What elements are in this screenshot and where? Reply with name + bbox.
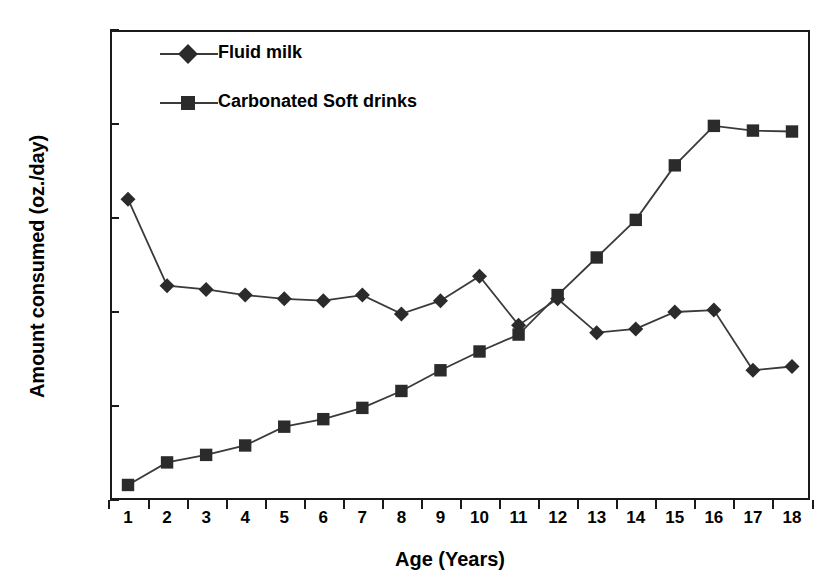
y-tick-mark: [110, 217, 119, 219]
x-axis-title: Age (Years): [100, 548, 800, 571]
x-tick-mark: [655, 500, 657, 509]
x-tick-mark: [538, 500, 540, 509]
legend-key-square-icon: [160, 92, 218, 114]
y-tick-mark: [110, 311, 119, 313]
x-tick-label: 14: [616, 508, 656, 528]
x-tick-label: 17: [733, 508, 773, 528]
x-tick-mark: [616, 500, 618, 509]
line-chart: Amount consumed (oz./day) 0510152025 123…: [0, 0, 834, 586]
x-tick-mark: [694, 500, 696, 509]
x-tick-mark: [343, 500, 345, 509]
x-tick-label: 9: [420, 508, 460, 528]
y-tick-mark: [110, 123, 119, 125]
x-tick-label: 13: [577, 508, 617, 528]
x-tick-mark: [577, 500, 579, 509]
x-tick-mark: [772, 500, 774, 509]
x-tick-label: 16: [694, 508, 734, 528]
x-tick-label: 12: [538, 508, 578, 528]
y-axis-title: Amount consumed (oz./day): [26, 47, 49, 487]
x-tick-label: 7: [342, 508, 382, 528]
x-tick-mark: [304, 500, 306, 509]
legend-entry-fluid-milk: Fluid milk: [160, 42, 500, 65]
x-tick-label: 4: [225, 508, 265, 528]
x-tick-label: 10: [460, 508, 500, 528]
y-tick-mark: [110, 499, 119, 501]
x-tick-mark: [812, 500, 814, 509]
y-tick-mark: [110, 29, 119, 31]
legend-key-diamond-icon: [160, 43, 218, 65]
x-tick-label: 3: [186, 508, 226, 528]
square-marker-icon: [181, 96, 195, 110]
x-tick-label: 8: [381, 508, 421, 528]
x-tick-mark: [226, 500, 228, 509]
x-tick-mark: [460, 500, 462, 509]
legend-label-fluid-milk: Fluid milk: [218, 42, 302, 63]
legend: Fluid milk Carbonated Soft drinks: [160, 42, 500, 140]
x-tick-label: 15: [655, 508, 695, 528]
x-tick-mark: [733, 500, 735, 509]
x-tick-label: 2: [147, 508, 187, 528]
x-tick-label: 5: [264, 508, 304, 528]
x-tick-label: 1: [108, 508, 148, 528]
x-tick-mark: [421, 500, 423, 509]
x-tick-mark: [499, 500, 501, 509]
legend-entry-carbonated-soft-drinks: Carbonated Soft drinks: [160, 91, 500, 114]
legend-label-carbonated-soft-drinks: Carbonated Soft drinks: [218, 91, 417, 112]
x-tick-mark: [148, 500, 150, 509]
diamond-marker-icon: [178, 44, 198, 64]
x-tick-mark: [108, 500, 110, 509]
x-tick-mark: [382, 500, 384, 509]
x-tick-label: 6: [303, 508, 343, 528]
y-tick-mark: [110, 405, 119, 407]
x-tick-label: 11: [499, 508, 539, 528]
x-tick-mark: [187, 500, 189, 509]
x-tick-label: 18: [772, 508, 812, 528]
x-tick-mark: [265, 500, 267, 509]
